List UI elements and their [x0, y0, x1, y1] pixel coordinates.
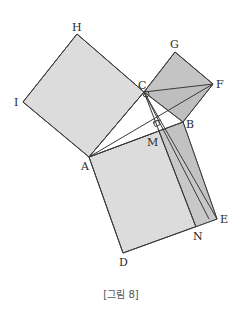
label-B: B — [186, 118, 194, 131]
label-G: G — [170, 38, 179, 51]
label-D: D — [119, 256, 128, 269]
label-A: A — [80, 160, 90, 173]
label-I: I — [14, 96, 18, 109]
label-N: N — [193, 230, 203, 243]
label-M: M — [147, 136, 158, 149]
figure-caption: [그림 8] — [103, 289, 138, 300]
label-C: C — [138, 79, 146, 92]
pythagorean-diagram: H I C A G F B M E N D [그림 8] — [0, 0, 242, 321]
label-E: E — [220, 213, 228, 226]
label-F: F — [216, 78, 224, 91]
label-H: H — [72, 21, 82, 34]
